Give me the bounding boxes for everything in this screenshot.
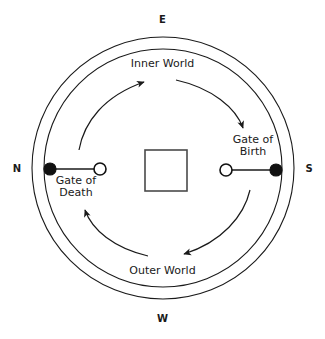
gate-of-birth-label: Gate of Birth: [205, 134, 301, 159]
arrow-outer-ascending-left: [85, 210, 148, 256]
diagram-canvas: E S W N Inner World Outer World Gate of …: [0, 0, 325, 339]
gate-death-filled-node: [44, 163, 56, 175]
band-label-inner-world: Inner World: [0, 58, 325, 70]
gate-of-birth-label-line2: Birth: [205, 146, 301, 158]
gate-birth-open-node: [220, 164, 232, 176]
compass-label-north: N: [4, 163, 30, 174]
compass-label-east: E: [0, 14, 325, 25]
band-label-outer-world: Outer World: [0, 265, 325, 277]
arrow-outer-descending-right: [184, 190, 250, 254]
gate-of-death-label: Gate of Death: [28, 175, 124, 200]
compass-label-south: S: [296, 163, 322, 174]
gate-birth-filled-node: [270, 164, 282, 176]
outer-circle: [32, 37, 294, 299]
arrow-inner-descending-right: [176, 80, 243, 128]
arrow-inner-ascending-left: [79, 82, 144, 150]
inner-circle: [44, 49, 282, 287]
center-square: [145, 150, 187, 191]
compass-label-west: W: [0, 313, 325, 324]
diagram-graphics: [0, 0, 325, 339]
gate-of-death-label-line2: Death: [28, 187, 124, 199]
